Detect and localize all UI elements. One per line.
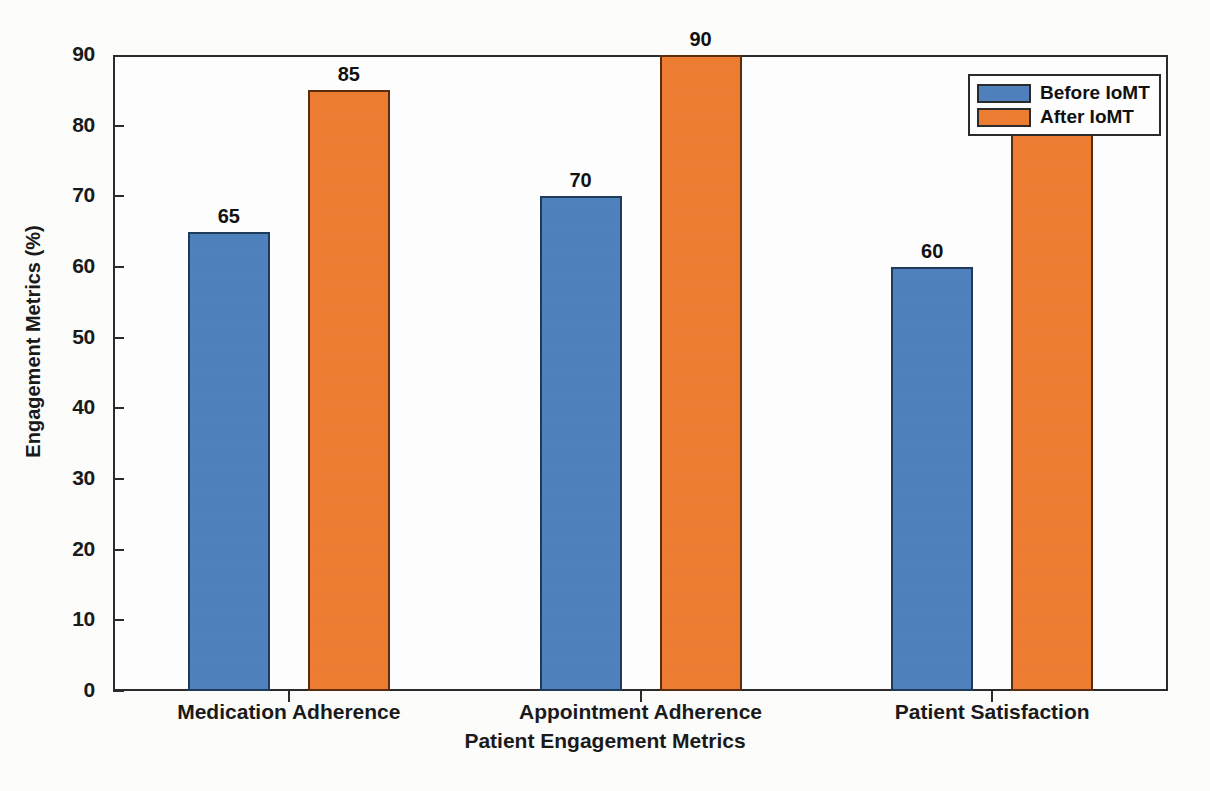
y-axis-tick-mark [113, 478, 124, 480]
legend-color-swatch [977, 84, 1031, 103]
bar-value-label: 90 [689, 28, 711, 51]
bar-value-label: 65 [218, 205, 240, 228]
y-axis-tick-label: 50 [72, 325, 95, 349]
y-axis-tick-mark [113, 195, 124, 197]
legend-entry-label: After IoMT [1040, 106, 1134, 128]
bar-value-label: 85 [338, 63, 360, 86]
y-axis-tick-label: 80 [72, 113, 95, 137]
y-axis-tick-label: 40 [72, 395, 95, 419]
x-axis-tick-label: Medication Adherence [177, 700, 400, 724]
bar-before-iomt [891, 267, 973, 691]
y-axis-tick-mark [113, 266, 124, 268]
y-axis-tick-mark [113, 690, 124, 692]
plot-area [113, 55, 1168, 691]
x-axis-tick-label: Appointment Adherence [519, 700, 762, 724]
bar-after-iomt [660, 55, 742, 691]
y-axis-tick-label: 0 [84, 678, 95, 702]
y-axis-tick-label: 30 [72, 466, 95, 490]
y-axis-tick-label: 90 [72, 42, 95, 66]
y-axis-tick-mark [113, 407, 124, 409]
y-axis-tick-mark [113, 619, 124, 621]
y-axis-tick-label: 10 [72, 607, 95, 631]
y-axis-tick-label: 20 [72, 537, 95, 561]
bar-before-iomt [188, 232, 270, 691]
legend-color-swatch [977, 108, 1031, 127]
legend-entry-label: Before IoMT [1040, 82, 1150, 104]
y-axis-tick-mark [113, 549, 124, 551]
bar-after-iomt [1011, 133, 1093, 691]
y-axis-tick-label: 60 [72, 254, 95, 278]
x-axis-title: Patient Engagement Metrics [0, 729, 1210, 753]
y-axis-tick-mark [113, 337, 124, 339]
y-axis-title: Engagement Metrics (%) [22, 62, 45, 622]
y-axis-tick-mark [113, 125, 124, 127]
legend-entry: Before IoMT [977, 81, 1150, 105]
legend-entry: After IoMT [977, 105, 1150, 129]
bar-value-label: 70 [569, 169, 591, 192]
bar-after-iomt [308, 90, 390, 691]
bar-value-label: 60 [921, 240, 943, 263]
chart-legend: Before IoMTAfter IoMT [968, 74, 1161, 136]
bar-chart-figure: 0102030405060708090 Engagement Metrics (… [0, 0, 1210, 791]
x-axis-tick-label: Patient Satisfaction [895, 700, 1090, 724]
y-axis-tick-label: 70 [72, 183, 95, 207]
bar-before-iomt [540, 196, 622, 691]
